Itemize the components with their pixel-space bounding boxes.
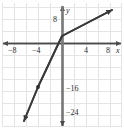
x-tick-label-4: 4	[84, 47, 88, 55]
graph-figure: −8 −4 4 8 x y 8 −16 −24	[0, 0, 124, 129]
x-axis-name-label: x	[116, 47, 120, 55]
y-tick-label-8: 8	[53, 16, 57, 24]
marked-point	[36, 85, 40, 89]
y-tick-label-neg24: −24	[66, 109, 79, 117]
x-tick-label-8: 8	[106, 47, 110, 55]
y-axis-name-label: y	[66, 7, 70, 15]
x-tick-label-neg4: −4	[32, 47, 41, 55]
y-tick-label-neg16: −16	[66, 85, 79, 93]
coordinate-plane-svg	[0, 0, 124, 129]
x-tick-label-neg8: −8	[8, 47, 17, 55]
